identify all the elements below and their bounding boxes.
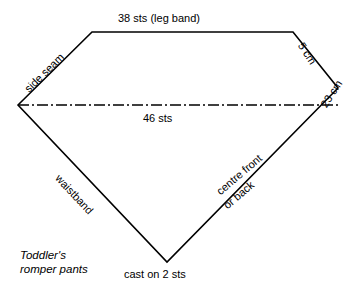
caption-line-2: romper pants [20,262,88,276]
diagram-caption: Toddler's romper pants [20,248,88,276]
garment-outline-polygon [18,32,338,262]
caption-line-1: Toddler's [20,248,88,262]
label-cast-on-stitches: cast on 2 sts [124,268,186,281]
label-centre-stitches: 46 sts [143,112,172,125]
label-leg-band-stitches: 38 sts (leg band) [118,12,200,25]
romper-pants-schematic-diagram: 38 sts (leg band) 46 sts cast on 2 sts s… [0,0,359,289]
